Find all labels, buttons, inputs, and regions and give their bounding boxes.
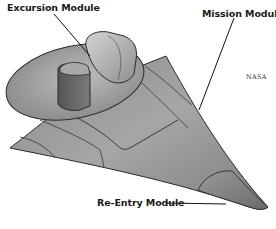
label-mission-module: Mission Module bbox=[202, 8, 276, 19]
credit-nasa: NASA bbox=[246, 73, 267, 81]
mission-leader-line bbox=[199, 18, 234, 110]
label-excursion-module: Excursion Module bbox=[7, 2, 100, 13]
spacecraft-illustration bbox=[0, 0, 276, 229]
label-reentry-module: Re-Entry Module bbox=[97, 197, 184, 208]
spacecraft-diagram: Excursion Module Mission Module Re-Entry… bbox=[0, 0, 276, 229]
